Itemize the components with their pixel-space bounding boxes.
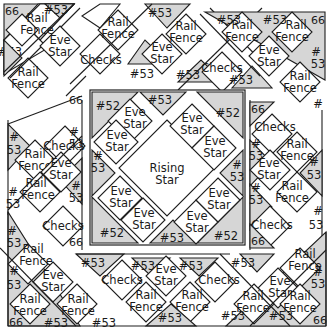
label-fence: Fence: [275, 30, 309, 44]
label-checks: Checks: [254, 120, 295, 134]
label-star: Star: [185, 221, 209, 235]
label-fence: Fence: [19, 254, 53, 268]
label-53: #53: [179, 259, 203, 273]
label-53b: 53: [311, 57, 326, 71]
label-fence: Fence: [21, 188, 55, 202]
quilt-diagram: 66 Rail Fence #53 #53 Rail Fence Eve Sta…: [0, 0, 329, 330]
label-hash: #: [309, 155, 319, 169]
label-66: 66: [69, 236, 83, 249]
label-star: Star: [257, 55, 281, 69]
label-53: #53: [217, 13, 241, 27]
label-star: Star: [154, 274, 178, 288]
label-53b: 53: [249, 193, 264, 207]
label-star: Star: [41, 280, 65, 294]
label-53: #53: [160, 231, 184, 245]
label-53b: 53: [311, 277, 326, 291]
label-66: 66: [311, 14, 325, 27]
label-53b: 53: [7, 143, 22, 157]
label-fence: Fence: [101, 27, 135, 41]
sash-line: [66, 76, 86, 96]
label-53: #53: [263, 13, 287, 27]
label-hash: #: [313, 97, 323, 111]
label-53b: 53: [7, 236, 22, 250]
label-52: #52: [96, 99, 120, 113]
label-checks: Checks: [42, 219, 83, 233]
sash-line: [8, 96, 82, 124]
label-66: 66: [313, 314, 327, 327]
label-53: #53: [158, 311, 182, 325]
label-checks: Checks: [80, 53, 121, 67]
label-star: Star: [257, 168, 281, 182]
label-53b: 53: [230, 170, 245, 184]
label-53: #53: [231, 256, 255, 270]
label-53b: 53: [7, 278, 22, 292]
label-star: Star: [132, 218, 156, 232]
label-checks: Checks: [251, 218, 292, 232]
label-53b: 53: [307, 168, 322, 182]
label-star: Star: [48, 45, 72, 59]
label-star: Star: [207, 198, 231, 212]
label-53: #53: [229, 73, 253, 87]
label-53: #53: [148, 6, 172, 20]
label-66: 66: [251, 103, 265, 116]
label-52: #52: [214, 229, 238, 243]
label-star: Star: [49, 168, 73, 182]
label-hash: #: [9, 130, 19, 144]
label-checks: Checks: [198, 273, 239, 287]
label-66: 66: [5, 5, 19, 18]
label-hash: #: [313, 204, 323, 218]
right-column: 66 Checks # 53 Rail Fence # 53 Eve Star …: [249, 100, 324, 250]
label-checks: Checks: [101, 273, 142, 287]
label-53b: 53: [69, 137, 84, 151]
label-53b: 53: [69, 191, 84, 205]
center-block: #52 #52 #52 #52 #53 # 53 # 53 #53 Rising…: [90, 90, 245, 245]
label-star: Star: [105, 140, 129, 154]
label-star: Star: [180, 123, 204, 137]
label-52: #52: [216, 106, 240, 120]
label-53: #53: [130, 67, 154, 81]
label-53: #53: [221, 309, 245, 323]
label-66: 66: [251, 235, 265, 248]
label-star: Star: [203, 146, 227, 160]
label-53b: 53: [91, 161, 106, 175]
label-fence: Fence: [283, 81, 317, 95]
label-53: #53: [148, 93, 172, 107]
label-star: Star: [150, 52, 174, 66]
label-53: #53: [44, 3, 68, 17]
label-52: #52: [100, 226, 124, 240]
label-fence: Fence: [11, 77, 45, 91]
label-fence: Fence: [169, 31, 203, 45]
label-53: #53: [44, 316, 68, 330]
label-53: #53: [81, 256, 105, 270]
label-53b: 53: [309, 218, 324, 232]
label-53: #53: [92, 316, 116, 330]
label-66: 66: [9, 316, 23, 329]
label-fence: Fence: [225, 30, 259, 44]
label-star: Star: [155, 173, 179, 187]
label-fence: Fence: [275, 191, 309, 205]
label-star: Star: [109, 196, 133, 210]
